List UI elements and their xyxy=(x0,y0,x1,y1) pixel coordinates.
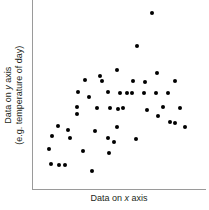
scatter-point xyxy=(90,169,94,173)
scatter-point xyxy=(76,90,80,94)
scatter-point xyxy=(143,80,147,84)
scatter-point xyxy=(134,137,138,141)
scatter-point xyxy=(145,108,149,112)
y-axis-label: Data on y axis (e.g. temperature of day) xyxy=(0,0,30,190)
scatter-point xyxy=(68,136,72,140)
y-axis-variable: y xyxy=(4,85,14,90)
scatter-point xyxy=(156,114,160,118)
scatter-point xyxy=(57,163,61,167)
scatter-point xyxy=(178,106,182,110)
scatter-point xyxy=(112,140,116,144)
x-axis-label-suffix: axis xyxy=(129,193,148,203)
scatter-point xyxy=(183,125,187,129)
scatter-point xyxy=(50,134,54,138)
scatter-point xyxy=(56,124,60,128)
scatter-point xyxy=(106,90,110,94)
scatter-point xyxy=(154,91,158,95)
scatter-point xyxy=(95,106,99,110)
scatter-point xyxy=(98,74,102,78)
scatter-point xyxy=(49,162,53,166)
scatter-points-layer xyxy=(33,0,206,189)
scatter-point xyxy=(75,112,79,116)
y-axis-label-line-1: Data on y axis xyxy=(4,45,15,144)
scatter-point xyxy=(121,106,125,110)
scatter-point xyxy=(131,79,135,83)
scatter-point xyxy=(161,105,165,109)
scatter-point xyxy=(108,106,112,110)
scatter-point xyxy=(116,107,120,111)
scatter-point xyxy=(107,151,111,155)
scatter-point xyxy=(66,128,70,132)
scatter-point xyxy=(130,91,134,95)
y-axis-label-text: Data on y axis (e.g. temperature of day) xyxy=(4,45,27,144)
scatter-point xyxy=(47,147,51,151)
scatter-point xyxy=(150,11,154,15)
scatter-point xyxy=(100,79,104,83)
scatter-point xyxy=(173,79,177,83)
scatter-point xyxy=(75,105,79,109)
x-axis-label-prefix: Data on xyxy=(90,193,124,203)
scatter-plot-figure: Data on y axis (e.g. temperature of day)… xyxy=(0,0,209,210)
scatter-point xyxy=(63,163,67,167)
scatter-point xyxy=(166,91,170,95)
scatter-point xyxy=(106,136,110,140)
scatter-point xyxy=(81,149,85,153)
scatter-point xyxy=(135,44,139,48)
scatter-point xyxy=(118,91,122,95)
scatter-point xyxy=(142,91,146,95)
scatter-point xyxy=(87,95,91,99)
plot-area xyxy=(32,0,206,190)
y-axis-label-suffix: axis xyxy=(4,66,14,85)
x-axis-label: Data on x axis xyxy=(32,193,206,203)
scatter-point xyxy=(125,91,129,95)
scatter-point xyxy=(155,71,159,75)
scatter-point xyxy=(115,68,119,72)
y-axis-label-prefix: Data on xyxy=(4,90,14,124)
y-axis-label-line-2: (e.g. temperature of day) xyxy=(15,45,26,144)
scatter-point xyxy=(173,121,177,125)
scatter-point xyxy=(115,125,119,129)
scatter-point xyxy=(168,120,172,124)
scatter-point xyxy=(93,129,97,133)
scatter-point xyxy=(83,78,87,82)
